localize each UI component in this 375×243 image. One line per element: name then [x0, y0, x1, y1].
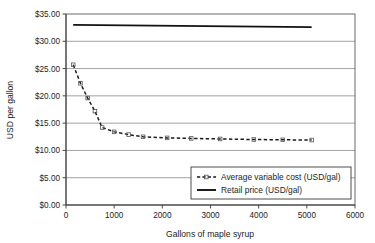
x-tick-label: 1000 [105, 211, 124, 220]
legend-label-retail-price: Retail price (USD/gal) [221, 185, 302, 195]
y-tick-label: $5.00 [40, 174, 61, 183]
y-tick-label: $25.00 [35, 65, 60, 74]
x-tick-label: 3000 [201, 211, 220, 220]
x-axis-title: Gallons of maple syrup [166, 229, 254, 239]
legend-label-average-variable-cost: Average variable cost (USD/gal) [221, 172, 341, 182]
x-tick-label: 6000 [346, 211, 365, 220]
line-chart: $0.00$5.00$10.00$15.00$20.00$25.00$30.00… [0, 0, 375, 243]
y-tick-label: $35.00 [35, 10, 60, 19]
y-axis-ticks: $0.00$5.00$10.00$15.00$20.00$25.00$30.00… [35, 10, 66, 210]
chart-legend: Average variable cost (USD/gal) Retail p… [191, 167, 351, 199]
x-axis-ticks: 0100020003000400050006000 [64, 205, 365, 220]
y-tick-label: $0.00 [40, 201, 61, 210]
x-tick-label: 4000 [250, 211, 269, 220]
x-tick-label: 5000 [298, 211, 317, 220]
y-tick-label: $30.00 [35, 37, 60, 46]
x-tick-label: 0 [64, 211, 69, 220]
y-axis-title: USD per gallon [5, 81, 15, 139]
y-tick-label: $15.00 [35, 119, 60, 128]
x-tick-label: 2000 [153, 211, 172, 220]
chart-container: $0.00$5.00$10.00$15.00$20.00$25.00$30.00… [0, 0, 375, 243]
y-tick-label: $20.00 [35, 92, 60, 101]
y-tick-label: $10.00 [35, 146, 60, 155]
